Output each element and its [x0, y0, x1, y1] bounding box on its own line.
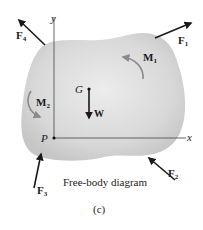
y-axis-label: y [51, 13, 56, 24]
moment-m1-label: M1 [143, 52, 157, 65]
moment-m2-label: M2 [36, 97, 50, 110]
force-f2-label: F2 [168, 168, 178, 181]
point-p-label: P [41, 133, 48, 144]
x-axis-label: x [187, 132, 192, 143]
diagram-caption: Free-body diagram [63, 177, 147, 188]
force-f3-label: F3 [37, 185, 47, 198]
force-f3-arrow-icon [34, 154, 41, 188]
figure-label: (c) [93, 204, 105, 215]
point-p-dot [52, 136, 55, 139]
force-f1-label: F1 [178, 35, 188, 48]
point-g-label: G [75, 84, 83, 95]
force-f4-label: F4 [16, 30, 26, 43]
weight-label: W [94, 109, 104, 119]
